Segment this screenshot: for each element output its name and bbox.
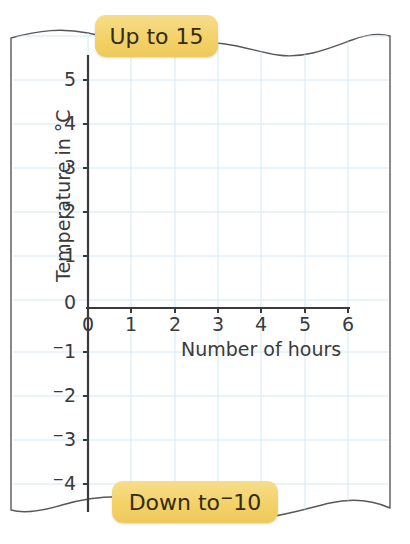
callout-bottom-value: −10 xyxy=(220,490,261,515)
x-tick-label-0: 0 xyxy=(74,315,102,334)
y-tick-label-0: 0 xyxy=(44,293,76,312)
y-tick-label-neg-4: −4 xyxy=(38,474,76,493)
callout-top-text: Up to 15 xyxy=(109,24,203,49)
x-tick-label-4: 4 xyxy=(247,315,275,334)
x-tick-label-1: 1 xyxy=(117,315,145,334)
grid-vertical xyxy=(88,24,348,524)
y-tick-label-1: 1 xyxy=(44,246,76,265)
y-tick-label-neg-2: −2 xyxy=(38,386,76,405)
minus-sign-icon: − xyxy=(52,383,63,399)
y-tick-label-neg-3: −3 xyxy=(38,430,76,449)
callout-bottom-prefix: Down to xyxy=(129,490,220,515)
worksheet-graph-figure: Temperature in °C 5 4 3 2 1 0 −1 −2 −3 −… xyxy=(0,0,410,544)
y-tick-label-2: 2 xyxy=(44,202,76,221)
minus-sign-icon: − xyxy=(52,471,63,487)
y-tick-label-5: 5 xyxy=(44,70,76,89)
y-tick-label-3: 3 xyxy=(44,158,76,177)
callout-up-to-15: Up to 15 xyxy=(95,15,218,57)
x-tick-label-3: 3 xyxy=(204,315,232,334)
y-tick-label-4: 4 xyxy=(44,114,76,133)
x-tick-label-5: 5 xyxy=(291,315,319,334)
y-tick-label-neg-1: −1 xyxy=(38,342,76,361)
x-tick-label-2: 2 xyxy=(161,315,189,334)
minus-sign-icon: − xyxy=(52,427,63,443)
minus-sign-icon: − xyxy=(52,339,63,355)
x-tick-label-6: 6 xyxy=(334,315,362,334)
minus-sign-icon: − xyxy=(220,488,233,507)
callout-down-to-minus-10: Down to −10 xyxy=(112,481,278,523)
x-axis-title: Number of hours xyxy=(181,340,341,359)
